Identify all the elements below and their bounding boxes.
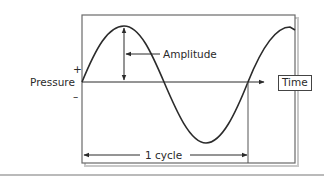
pressure-label: Pressure bbox=[30, 77, 75, 88]
amplitude-label: Amplitude bbox=[163, 49, 217, 60]
plot-frame bbox=[82, 15, 295, 163]
cycle-label: 1 cycle bbox=[145, 150, 182, 161]
time-label: Time bbox=[278, 75, 312, 91]
plus-sign: + bbox=[73, 64, 82, 75]
minus-sign: – bbox=[73, 91, 78, 102]
